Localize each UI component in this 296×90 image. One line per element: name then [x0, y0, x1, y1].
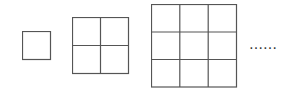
continuation-ellipsis: …… — [249, 36, 277, 52]
grid-3x3 — [151, 4, 238, 88]
grid-2x2 — [72, 17, 130, 75]
grid-1x1 — [22, 31, 52, 61]
